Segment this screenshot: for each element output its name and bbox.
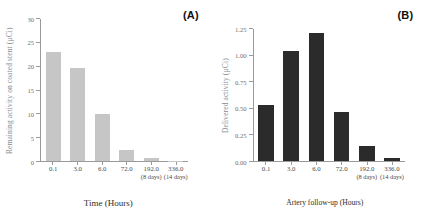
y-tick-a-3: 15 xyxy=(36,90,40,91)
x-tick-label: 0.1 xyxy=(254,165,279,173)
bar xyxy=(384,158,400,161)
bar xyxy=(309,33,325,161)
y-tick-b-0: 0.00 xyxy=(249,161,253,162)
y-tick-label-a-4: 20 xyxy=(27,63,34,70)
y-tick-label-a-3: 15 xyxy=(27,87,34,94)
bar xyxy=(119,150,134,161)
x-tick-labels-a: 0.13.06.072.0192.0(8 days)336.0(14 days) xyxy=(41,165,188,181)
bar-slot xyxy=(115,19,140,161)
y-tick-a-1: 5 xyxy=(36,137,40,138)
x-tick-sublabel: (14 days) xyxy=(164,173,189,181)
x-tick-label: 72.0 xyxy=(329,165,354,173)
y-tick-b-1: 0.25 xyxy=(249,134,253,135)
figure-container: (A) Remaining activity on coated stent (… xyxy=(0,0,433,218)
x-tick-label: 72.0 xyxy=(115,165,140,173)
x-tick-label-group: 72.0 xyxy=(329,165,354,181)
x-tick-label-group: 192.0(8 days) xyxy=(354,165,379,181)
bar xyxy=(334,112,350,161)
x-tick-label: 192.0 xyxy=(354,165,379,173)
x-tick-label: 336.0 xyxy=(164,165,189,173)
y-tick-a-5: 25 xyxy=(36,42,40,43)
y-tick-label-b-3: 0.75 xyxy=(235,78,247,85)
panel-label-b: (B) xyxy=(398,9,414,21)
x-axis-title-b: Artery follow-up (Hours) xyxy=(217,198,433,207)
bar xyxy=(95,114,110,161)
y-axis-title-a-unit: (µCi) xyxy=(5,28,14,45)
plot-area-a: 051015202530 xyxy=(40,19,188,162)
x-axis-line-b xyxy=(253,161,405,162)
bar-group-b xyxy=(254,29,405,161)
x-tick-label-group: 72.0 xyxy=(115,165,140,181)
y-tick-label-b-2: 0.50 xyxy=(235,105,247,112)
x-tick-label: 336.0 xyxy=(379,165,404,173)
y-tick-label-a-0: 0 xyxy=(31,158,34,165)
y-tick-label-b-5: 1.25 xyxy=(235,25,247,32)
y-axis-title-a-line1: Remaining activity on coated stent xyxy=(5,47,14,155)
chart-panel-a: (A) Remaining activity on coated stent (… xyxy=(0,0,217,218)
x-tick-label-group: 336.0(14 days) xyxy=(164,165,189,181)
bar xyxy=(258,105,274,161)
x-tick-labels-b: 0.13.06.072.0192.0(8 days)336.0(14 days) xyxy=(254,165,405,181)
plot-area-b: 0.000.250.500.751.001.25 xyxy=(253,29,405,162)
bar-slot xyxy=(139,19,164,161)
bar-slot xyxy=(90,19,115,161)
y-tick-b-2: 0.50 xyxy=(249,108,253,109)
bar-group-a xyxy=(41,19,188,161)
bar-slot xyxy=(41,19,66,161)
y-axis-title-a: Remaining activity on coated stent (µCi) xyxy=(6,20,14,162)
bar xyxy=(359,146,375,161)
bar xyxy=(46,52,61,161)
x-tick-label: 0.1 xyxy=(41,165,66,173)
y-tick-label-a-6: 30 xyxy=(27,15,34,22)
bar-slot xyxy=(164,19,189,161)
y-tick-label-a-1: 5 xyxy=(31,134,34,141)
x-tick-label-group: 3.0 xyxy=(279,165,304,181)
y-tick-label-a-5: 25 xyxy=(27,39,34,46)
x-tick-sublabel: (8 days) xyxy=(354,173,379,181)
chart-panel-b: (B) Delivered activity (µCi) 0.000.250.5… xyxy=(217,0,433,218)
x-tick-label-group: 0.1 xyxy=(41,165,66,181)
y-tick-a-0: 0 xyxy=(36,161,40,162)
y-tick-label-b-4: 1.00 xyxy=(235,52,247,59)
y-tick-a-4: 20 xyxy=(36,66,40,67)
x-tick-label-group: 3.0 xyxy=(66,165,91,181)
bar-slot xyxy=(279,29,304,161)
x-tick-label-group: 336.0(14 days) xyxy=(379,165,404,181)
y-tick-b-5: 1.25 xyxy=(249,28,253,29)
bar-slot xyxy=(379,29,404,161)
bar xyxy=(283,51,299,161)
y-axis-title-b: Delivered activity (µCi) xyxy=(222,36,230,156)
bar-slot xyxy=(66,19,91,161)
x-axis-title-a: Time (Hours) xyxy=(0,198,217,208)
y-axis-title-b-line1: Delivered activity (µCi) xyxy=(221,59,230,134)
bar-slot xyxy=(304,29,329,161)
bar-slot xyxy=(254,29,279,161)
bar xyxy=(70,68,85,161)
y-tick-label-b-0: 0.00 xyxy=(235,158,247,165)
x-tick-label: 3.0 xyxy=(66,165,91,173)
x-tick-sublabel: (8 days) xyxy=(139,173,164,181)
x-tick-label: 3.0 xyxy=(279,165,304,173)
x-tick-sublabel: (14 days) xyxy=(379,173,404,181)
x-tick-label: 6.0 xyxy=(90,165,115,173)
x-tick-label-group: 192.0(8 days) xyxy=(139,165,164,181)
x-axis-line-a xyxy=(40,161,188,162)
x-tick-label-group: 0.1 xyxy=(254,165,279,181)
y-tick-b-3: 0.75 xyxy=(249,81,253,82)
y-tick-label-b-1: 0.25 xyxy=(235,131,247,138)
bar xyxy=(144,158,159,161)
y-tick-label-a-2: 10 xyxy=(27,110,34,117)
y-tick-a-6: 30 xyxy=(36,18,40,19)
bar-slot xyxy=(329,29,354,161)
bar-slot xyxy=(354,29,379,161)
y-tick-a-2: 10 xyxy=(36,113,40,114)
x-tick-label-group: 6.0 xyxy=(304,165,329,181)
x-tick-label-group: 6.0 xyxy=(90,165,115,181)
x-tick-label: 192.0 xyxy=(139,165,164,173)
x-tick-label: 6.0 xyxy=(304,165,329,173)
y-tick-b-4: 1.00 xyxy=(249,55,253,56)
